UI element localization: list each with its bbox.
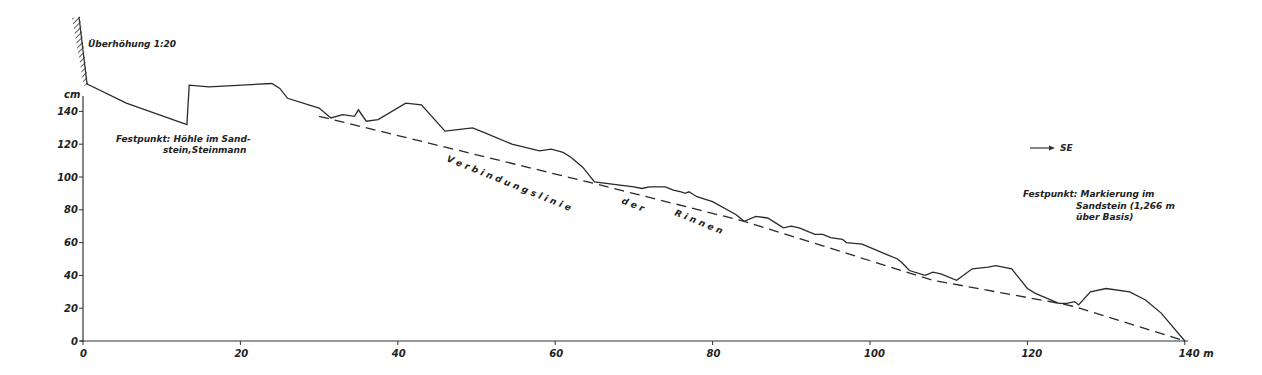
y-unit-label: cm xyxy=(64,89,80,100)
connecting-line-label-3: R i n n e n xyxy=(673,208,724,236)
x-tick-label: 40 xyxy=(391,348,406,359)
y-tick-label: 140 xyxy=(57,106,78,117)
profile-chart: 020406080100120140 020406080100120140 m … xyxy=(0,0,1262,375)
connecting-line-dashed xyxy=(319,116,1185,341)
x-tick-label: 60 xyxy=(549,348,563,359)
x-tick-label: 0 xyxy=(80,348,87,359)
x-tick-label: 140 m xyxy=(1179,348,1214,359)
direction-arrow-icon xyxy=(1049,146,1055,151)
y-tick-label: 100 xyxy=(57,172,78,183)
fixed-point-2-line1: Festpunkt: Markierung im xyxy=(1023,189,1154,199)
x-ticks: 020406080100120140 m xyxy=(80,341,1214,359)
x-tick-label: 20 xyxy=(234,348,248,359)
profile-line xyxy=(86,84,1185,342)
connecting-line-label-2: d e r xyxy=(620,196,646,214)
y-ticks: 020406080100120140 xyxy=(57,106,83,347)
y-tick-label: 60 xyxy=(64,237,78,248)
fixed-point-1-line2: stein,Steinmann xyxy=(163,145,246,155)
direction-label: SE xyxy=(1060,143,1073,153)
y-tick-label: 40 xyxy=(63,270,78,281)
x-tick-label: 100 xyxy=(864,348,885,359)
y-tick-label: 0 xyxy=(71,336,78,347)
fixed-point-2-line3: über Basis) xyxy=(1076,212,1133,222)
y-tick-label: 120 xyxy=(57,139,78,150)
exaggeration-label: Überhöhung 1:20 xyxy=(88,39,176,49)
x-tick-label: 120 xyxy=(1021,348,1042,359)
x-tick-label: 80 xyxy=(707,348,721,359)
fixed-point-2-line2: Sandstein (1,266 m xyxy=(1076,201,1175,211)
fixed-point-1-line1: Festpunkt: Höhle im Sand- xyxy=(116,134,251,144)
y-tick-label: 20 xyxy=(64,303,78,314)
y-tick-label: 80 xyxy=(64,204,78,215)
